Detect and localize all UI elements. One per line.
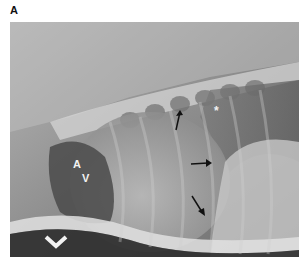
arrow-upper-icon [170,108,186,132]
label-v: V [82,172,89,184]
radiograph-rendering [10,22,299,257]
arrow-middle-icon [190,158,214,168]
panel-label: A [10,4,18,16]
arrow-lower-icon [190,194,208,218]
label-a: A [73,158,81,170]
asterisk-marker: * [214,104,219,118]
chevron-down-icon [43,234,69,250]
radiograph-image: A V * [10,22,299,257]
